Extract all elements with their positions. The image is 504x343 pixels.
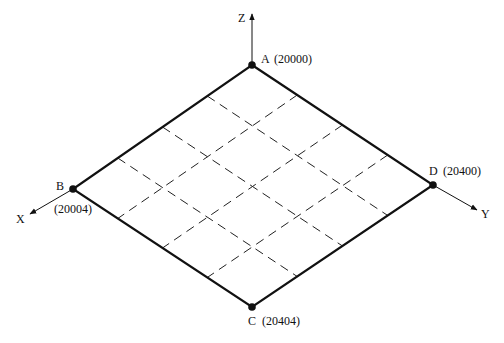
grid-line-parallel-ad <box>118 158 298 277</box>
vertex-d-value: (20400) <box>443 164 481 178</box>
axis-x-label: X <box>16 212 25 226</box>
vertex-c-label: C <box>248 314 256 328</box>
vertex-c-value: (20404) <box>262 314 300 328</box>
vertex-a-label: A <box>261 52 270 66</box>
vertex-c-dot <box>248 303 256 311</box>
isometric-grid-diagram: Z X Y A (20000) B (20004) C (20404) D (2… <box>0 0 504 343</box>
vertex-b-value: (20004) <box>54 202 92 216</box>
dashed-grid <box>118 95 388 278</box>
axis-z-label: Z <box>238 11 245 25</box>
grid-line-parallel-ab <box>163 125 343 248</box>
y-axis-arrow <box>433 185 477 210</box>
vertex-d-dot <box>429 181 437 189</box>
axes <box>30 14 477 214</box>
vertex-a-value: (20000) <box>274 52 312 66</box>
vertex-a-dot <box>248 61 256 69</box>
vertex-d-label: D <box>429 164 438 178</box>
vertex-b-label: B <box>56 179 64 193</box>
grid-line-parallel-ab <box>207 155 388 278</box>
axis-y-label: Y <box>481 207 490 221</box>
vertex-b-dot <box>69 185 77 193</box>
grid-line-parallel-ad <box>207 96 388 216</box>
